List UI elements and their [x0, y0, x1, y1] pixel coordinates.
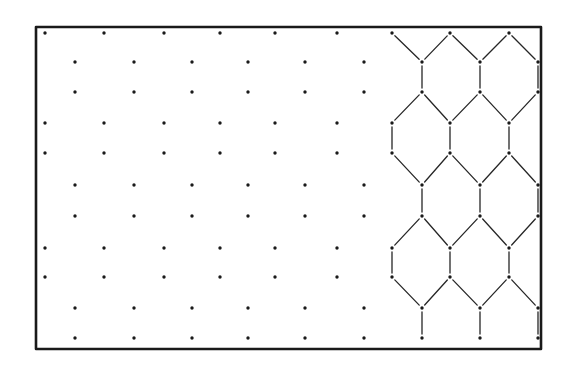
lattice-point: [335, 121, 338, 124]
lattice-point: [190, 183, 193, 186]
honeycomb-bond: [425, 95, 448, 120]
lattice-point: [448, 275, 451, 278]
lattice-figure: [0, 0, 577, 369]
lattice-point: [73, 336, 76, 339]
lattice-point: [273, 151, 276, 154]
lattice-point: [303, 336, 306, 339]
honeycomb-bond: [512, 156, 536, 182]
lattice-point: [303, 90, 306, 93]
lattice-point: [218, 246, 221, 249]
lattice-point: [43, 121, 46, 124]
honeycomb-bond: [483, 156, 507, 182]
lattice-point: [507, 121, 510, 124]
lattice-point: [390, 246, 393, 249]
honeycomb-bond: [395, 219, 420, 245]
lattice-point: [43, 246, 46, 249]
lattice-point: [132, 306, 135, 309]
lattice-point: [43, 275, 46, 278]
lattice-point: [420, 306, 423, 309]
honeycomb-bond: [395, 36, 419, 59]
lattice-point: [420, 183, 423, 186]
lattice-point: [190, 90, 193, 93]
lattice-point: [507, 275, 510, 278]
lattice-point: [273, 31, 276, 34]
honeycomb-bond: [425, 156, 448, 182]
honeycomb-bonds: [392, 36, 538, 334]
lattice-point: [536, 214, 539, 217]
honeycomb-bond: [395, 280, 419, 305]
lattice-point: [536, 60, 539, 63]
lattice-point: [102, 31, 105, 34]
lattice-point: [303, 60, 306, 63]
lattice-point: [420, 214, 423, 217]
lattice-point: [132, 336, 135, 339]
lattice-point: [335, 151, 338, 154]
lattice-point: [162, 31, 165, 34]
lattice-point: [536, 183, 539, 186]
lattice-point: [246, 183, 249, 186]
lattice-point: [478, 60, 481, 63]
lattice-point: [43, 151, 46, 154]
lattice-point: [190, 60, 193, 63]
lattice-point: [507, 151, 510, 154]
lattice-point: [218, 275, 221, 278]
lattice-diagram: [0, 0, 577, 369]
lattice-point: [303, 214, 306, 217]
lattice-point: [362, 183, 365, 186]
lattice-point: [73, 90, 76, 93]
lattice-point: [448, 246, 451, 249]
honeycomb-bond: [425, 219, 448, 245]
lattice-point: [132, 183, 135, 186]
lattice-point: [362, 60, 365, 63]
lattice-point: [218, 121, 221, 124]
honeycomb-bond: [512, 95, 536, 120]
lattice-point: [478, 306, 481, 309]
lattice-point: [218, 31, 221, 34]
honeycomb-bond: [453, 95, 477, 120]
lattice-point: [478, 90, 481, 93]
lattice-point: [162, 275, 165, 278]
honeycomb-bond: [483, 219, 507, 245]
lattice-point: [162, 151, 165, 154]
lattice-point: [132, 214, 135, 217]
lattice-point: [102, 275, 105, 278]
lattice-point: [303, 183, 306, 186]
lattice-point: [102, 151, 105, 154]
honeycomb-bond: [512, 219, 536, 245]
lattice-point: [536, 306, 539, 309]
honeycomb-bond: [512, 36, 535, 59]
lattice-point: [102, 121, 105, 124]
lattice-point: [246, 336, 249, 339]
lattice-point: [102, 246, 105, 249]
lattice-point: [420, 90, 423, 93]
lattice-point: [478, 336, 481, 339]
lattice-point: [448, 31, 451, 34]
lattice-point: [390, 31, 393, 34]
lattice-point: [507, 31, 510, 34]
lattice-point: [536, 336, 539, 339]
honeycomb-bond: [425, 280, 448, 305]
lattice-point: [303, 306, 306, 309]
lattice-point: [246, 214, 249, 217]
honeycomb-bond: [483, 95, 507, 120]
lattice-point: [190, 214, 193, 217]
lattice-point: [162, 121, 165, 124]
lattice-point: [246, 90, 249, 93]
lattice-point: [190, 336, 193, 339]
lattice-point: [390, 151, 393, 154]
honeycomb-bond: [453, 219, 478, 245]
lattice-point: [246, 60, 249, 63]
lattice-point: [390, 275, 393, 278]
lattice-point: [448, 121, 451, 124]
lattice-point: [190, 306, 193, 309]
lattice-point: [73, 60, 76, 63]
lattice-point: [218, 151, 221, 154]
lattice-point: [132, 60, 135, 63]
lattice-point: [335, 275, 338, 278]
honeycomb-bond: [483, 36, 506, 59]
lattice-point: [362, 90, 365, 93]
lattice-point: [362, 214, 365, 217]
honeycomb-bond: [453, 156, 478, 182]
figure-frame: [36, 27, 541, 349]
lattice-point: [335, 31, 338, 34]
